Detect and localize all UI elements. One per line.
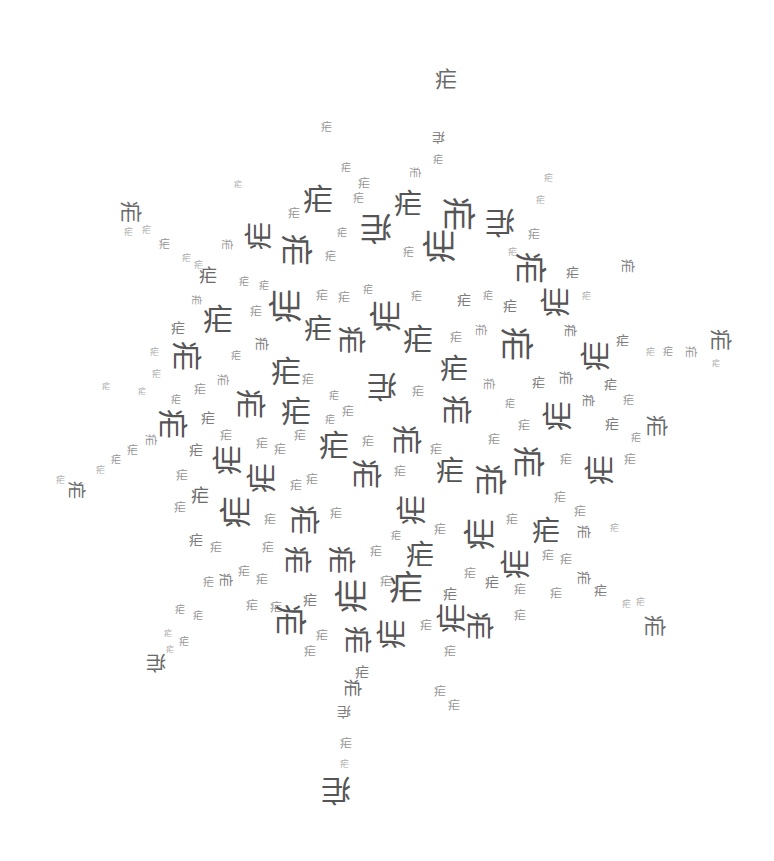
character-glyph: 疟 <box>316 290 328 302</box>
character-glyph: 疟 <box>302 374 314 386</box>
character-glyph: 疟 <box>436 458 464 486</box>
character-glyph: 疟 <box>262 542 274 554</box>
character-glyph: 疟 <box>316 630 328 642</box>
character-glyph: 疟 <box>406 542 434 570</box>
character-glyph: 疟 <box>441 197 475 231</box>
character-glyph: 疟 <box>304 316 332 344</box>
character-glyph: 疟 <box>124 228 133 237</box>
character-glyph: 疟 <box>709 329 731 351</box>
character-glyph: 疟 <box>441 395 471 425</box>
character-glyph: 疟 <box>191 487 209 505</box>
character-glyph: 疟 <box>616 334 629 347</box>
character-glyph: 疟 <box>505 399 515 409</box>
character-glyph: 疟 <box>191 295 201 305</box>
character-glyph: 疟 <box>397 495 427 525</box>
character-glyph: 疟 <box>342 626 370 654</box>
character-glyph: 疟 <box>360 212 392 244</box>
character-glyph: 疟 <box>411 291 422 302</box>
character-glyph: 疟 <box>636 598 645 607</box>
character-glyph: 疟 <box>319 431 349 461</box>
character-glyph: 疟 <box>246 222 274 250</box>
character-glyph: 疟 <box>604 378 617 391</box>
character-glyph: 疟 <box>303 185 333 215</box>
character-glyph: 疟 <box>358 178 370 190</box>
character-glyph: 疟 <box>340 738 352 750</box>
character-glyph: 疟 <box>362 436 374 448</box>
character-glyph: 疟 <box>290 480 302 492</box>
character-glyph: 疟 <box>321 775 351 805</box>
character-glyph: 疟 <box>138 388 146 396</box>
character-glyph: 疟 <box>303 593 317 607</box>
character-glyph: 疟 <box>370 300 402 332</box>
character-glyph: 疟 <box>175 605 185 615</box>
character-glyph: 疟 <box>146 652 166 672</box>
character-glyph: 疟 <box>235 389 265 419</box>
character-glyph: 疟 <box>67 481 85 499</box>
character-glyph: 疟 <box>391 531 401 541</box>
character-glyph: 疟 <box>56 476 65 485</box>
character-glyph: 疟 <box>514 584 526 596</box>
character-glyph: 疟 <box>171 321 185 335</box>
character-glyph: 疟 <box>554 492 566 504</box>
character-glyph: 疟 <box>102 383 110 391</box>
character-glyph: 疟 <box>304 646 316 658</box>
character-glyph: 疟 <box>247 463 277 493</box>
character-glyph: 疟 <box>210 542 222 554</box>
character-glyph: 疟 <box>448 700 460 712</box>
character-glyph: 疟 <box>96 466 105 475</box>
character-glyph: 疟 <box>474 464 506 496</box>
character-glyph: 疟 <box>174 502 186 514</box>
character-glyph: 疟 <box>282 546 310 574</box>
character-glyph: 疟 <box>482 378 494 390</box>
character-glyph: 疟 <box>213 445 243 475</box>
character-glyph: 疟 <box>443 587 457 601</box>
character-glyph: 疟 <box>577 571 591 585</box>
character-glyph: 疟 <box>281 397 311 427</box>
character-glyph: 疟 <box>532 518 560 546</box>
character-glyph: 疟 <box>111 455 121 465</box>
character-glyph: 疟 <box>582 292 591 301</box>
character-glyph: 疟 <box>610 524 619 533</box>
character-glyph: 疟 <box>220 496 252 528</box>
character-glyph: 疟 <box>203 577 214 588</box>
character-glyph: 疟 <box>271 357 301 387</box>
character-glyph: 疟 <box>542 550 554 562</box>
character-glyph: 疟 <box>645 415 667 437</box>
character-glyph: 疟 <box>506 514 518 526</box>
character-glyph: 疟 <box>246 600 258 612</box>
character-glyph: 疟 <box>423 229 457 263</box>
character-glyph: 疟 <box>623 395 634 406</box>
character-glyph: 疟 <box>585 455 615 485</box>
character-glyph: 疟 <box>157 409 187 439</box>
character-glyph: 疟 <box>544 174 553 183</box>
character-glyph: 疟 <box>684 346 696 358</box>
character-glyph: 疟 <box>434 686 446 698</box>
character-glyph: 疟 <box>159 239 170 250</box>
character-glyph: 疟 <box>512 446 544 478</box>
character-glyph: 疟 <box>420 620 432 632</box>
character-glyph: 疟 <box>577 525 591 539</box>
character-cloud-artwork: 疟疟疟疟疟疟疟疟疟疟疟疟疟疟疟疟疟疟疟疟疟疟疟疟疟疟疟疟疟疟疟疟疟疟疟疟疟疟疟疟… <box>0 0 774 861</box>
character-glyph: 疟 <box>581 341 611 371</box>
character-glyph: 疟 <box>433 155 443 165</box>
character-glyph: 疟 <box>234 181 242 189</box>
character-glyph: 疟 <box>221 239 232 250</box>
character-glyph: 疟 <box>330 508 342 520</box>
character-glyph: 疟 <box>171 395 181 405</box>
character-glyph: 疟 <box>543 401 573 431</box>
character-glyph: 疟 <box>274 604 306 636</box>
character-glyph: 疟 <box>440 356 468 384</box>
character-glyph: 疟 <box>150 348 159 357</box>
character-glyph: 疟 <box>343 679 361 697</box>
character-glyph: 疟 <box>457 293 471 307</box>
character-glyph: 疟 <box>485 207 515 237</box>
character-glyph: 疟 <box>179 637 189 647</box>
character-glyph: 疟 <box>435 69 457 91</box>
character-glyph: 疟 <box>329 391 339 401</box>
character-glyph: 疟 <box>341 163 351 173</box>
character-glyph: 疟 <box>294 430 306 442</box>
character-glyph: 疟 <box>306 474 318 486</box>
character-glyph: 疟 <box>464 518 496 550</box>
character-glyph: 疟 <box>337 228 347 238</box>
character-glyph: 疟 <box>624 454 636 466</box>
